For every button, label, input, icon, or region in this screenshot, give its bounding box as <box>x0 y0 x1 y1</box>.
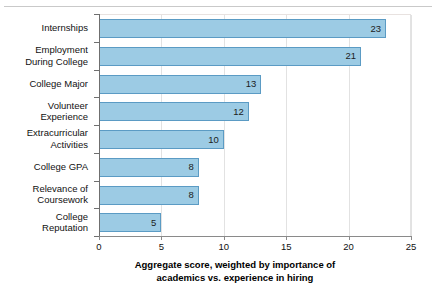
bar[interactable]: 8 <box>99 186 199 205</box>
x-axis-tick-label: 10 <box>209 241 239 252</box>
category-label: Relevance ofCoursework <box>0 183 88 206</box>
category-label: EmploymentDuring College <box>0 44 88 67</box>
category-label-line: College <box>0 211 88 223</box>
bar-row: 12 <box>99 98 410 126</box>
bar-row: 23 <box>99 15 410 43</box>
category-label: College Major <box>0 78 88 90</box>
top-divider-rule <box>4 6 432 7</box>
category-label-line: Coursework <box>0 194 88 206</box>
bar[interactable]: 13 <box>99 75 261 94</box>
y-axis-tick <box>94 97 99 98</box>
category-label: ExtracurricularActivities <box>0 127 88 150</box>
x-axis-tick <box>161 236 162 240</box>
bar-value-label: 13 <box>246 79 257 89</box>
category-label-line: Extracurricular <box>0 127 88 139</box>
bar[interactable]: 23 <box>99 19 386 38</box>
bar[interactable]: 8 <box>99 158 199 177</box>
y-axis-line <box>99 14 100 237</box>
x-axis-tick-label: 20 <box>334 241 364 252</box>
bar-chart-figure: 2321131210885 InternshipsEmploymentDurin… <box>0 0 435 285</box>
bar-row: 8 <box>99 182 410 210</box>
bar-value-label: 8 <box>189 163 194 173</box>
category-label-line: Experience <box>0 111 88 123</box>
bar[interactable]: 10 <box>99 130 224 149</box>
y-axis-tick <box>94 153 99 154</box>
bar-value-label: 8 <box>189 190 194 200</box>
x-axis-tick <box>286 236 287 240</box>
bar-series: 2321131210885 <box>99 15 410 236</box>
category-label-line: Internships <box>0 22 88 34</box>
bar[interactable]: 21 <box>99 47 361 66</box>
category-label: Internships <box>0 22 88 34</box>
category-label: CollegeReputation <box>0 211 88 234</box>
category-axis-labels: InternshipsEmploymentDuring CollegeColle… <box>0 14 93 236</box>
gridline-25 <box>411 15 412 236</box>
category-label-line: Relevance of <box>0 183 88 195</box>
y-axis-tick <box>94 236 99 237</box>
x-axis-tick <box>99 236 100 240</box>
bar-value-label: 21 <box>346 52 357 62</box>
y-axis-tick <box>94 42 99 43</box>
x-axis-tick <box>224 236 225 240</box>
plot-area: 2321131210885 <box>99 14 411 236</box>
x-axis-title-line: Aggregate score, weighted by importance … <box>60 259 410 272</box>
category-label-line: Activities <box>0 139 88 151</box>
x-axis-tick-label: 25 <box>396 241 426 252</box>
x-axis-tick-label: 15 <box>271 241 301 252</box>
bar[interactable]: 5 <box>99 213 161 232</box>
y-axis-tick <box>94 70 99 71</box>
category-label: College GPA <box>0 161 88 173</box>
category-label-line: During College <box>0 56 88 68</box>
x-axis-title: Aggregate score, weighted by importance … <box>60 259 410 284</box>
category-label-line: Volunteer <box>0 100 88 112</box>
y-axis-tick <box>94 125 99 126</box>
category-label-line: College Major <box>0 78 88 90</box>
bar-value-label: 12 <box>233 107 244 117</box>
category-label-line: Reputation <box>0 222 88 234</box>
x-axis-tick-label: 5 <box>146 241 176 252</box>
bar-value-label: 10 <box>208 135 219 145</box>
bar-row: 5 <box>99 209 410 237</box>
y-axis-tick <box>94 181 99 182</box>
bar-row: 21 <box>99 43 410 71</box>
y-axis-tick <box>94 208 99 209</box>
y-axis-tick <box>94 14 99 15</box>
x-axis-tick <box>349 236 350 240</box>
x-axis-title-line: academics vs. experience in hiring <box>60 272 410 285</box>
bar-row: 10 <box>99 126 410 154</box>
bar-value-label: 23 <box>370 24 381 34</box>
category-label-line: College GPA <box>0 161 88 173</box>
category-label: VolunteerExperience <box>0 100 88 123</box>
bar-row: 8 <box>99 154 410 182</box>
bar[interactable]: 12 <box>99 102 249 121</box>
bar-row: 13 <box>99 71 410 99</box>
category-label-line: Employment <box>0 44 88 56</box>
x-axis-tick-label: 0 <box>84 241 114 252</box>
x-axis-line <box>99 236 412 237</box>
bar-value-label: 5 <box>151 218 156 228</box>
x-axis-tick <box>411 236 412 240</box>
